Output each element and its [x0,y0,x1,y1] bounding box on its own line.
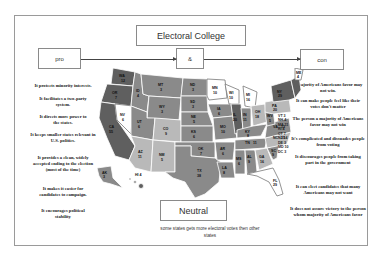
svg-text:3: 3 [103,175,105,179]
svg-text:10: 10 [221,130,225,134]
svg-text:20: 20 [273,108,277,112]
svg-text:3: 3 [160,88,162,92]
svg-text:3: 3 [192,88,194,92]
svg-text:10: 10 [213,91,217,95]
svg-text:29: 29 [273,183,277,187]
svg-text:MI: MI [246,93,250,97]
svg-text:OR: OR [112,91,118,95]
svg-text:GA: GA [259,155,265,159]
state-ne [181,112,213,126]
svg-text:6: 6 [222,152,224,156]
svg-text:9: 9 [248,160,250,164]
svg-text:11: 11 [243,118,247,122]
svg-text:6: 6 [238,162,240,166]
state-ar [215,142,235,160]
arrow-center-to-con [204,59,300,60]
svg-text:9: 9 [165,132,167,136]
svg-text:ND: ND [190,83,196,87]
svg-text:NV: NV [120,113,126,117]
svg-text:10: 10 [229,96,233,100]
svg-text:ID: ID [136,89,140,93]
svg-text:OK: OK [198,147,204,151]
svg-text:11: 11 [253,141,257,145]
svg-text:AZ: AZ [138,150,144,154]
svg-text:12: 12 [121,79,125,83]
svg-text:HI 4: HI 4 [135,173,142,177]
state-sd [181,96,208,112]
svg-text:NM: NM [159,153,165,157]
con-box: con [300,49,344,70]
svg-text:OH: OH [255,110,261,114]
state-az [129,136,153,172]
svg-text:6: 6 [218,112,220,116]
svg-text:29: 29 [278,94,282,98]
svg-text:MO: MO [220,125,226,129]
svg-text:6: 6 [138,125,140,129]
svg-text:6: 6 [193,135,195,139]
state-hi [139,184,144,189]
svg-text:CO: CO [163,127,169,131]
svg-text:3: 3 [161,110,163,114]
svg-text:7: 7 [200,152,202,156]
neutral-note: some states gets more electoral votes th… [160,226,260,240]
svg-text:AL: AL [247,155,253,159]
svg-text:11: 11 [138,155,142,159]
svg-text:7: 7 [115,96,117,100]
svg-text:TX: TX [197,169,202,173]
svg-text:WV: WV [267,114,273,118]
svg-text:5: 5 [269,119,271,123]
svg-text:SD: SD [190,100,195,104]
state-ks [181,126,213,142]
svg-text:5: 5 [161,158,163,162]
svg-text:MS: MS [236,157,242,161]
svg-text:NE: NE [191,115,197,119]
state-ak [97,166,123,188]
svg-text:IN: IN [243,113,247,117]
us-electoral-map: WA12 OR7 CA55 NV6 ID4 MT3 WY3 UT6 CO9 AZ… [95,68,305,203]
pro-box: pro [38,48,81,69]
svg-text:WI: WI [229,91,233,95]
svg-text:UT: UT [137,120,143,124]
state-mi [243,86,257,108]
state-al [245,150,257,174]
svg-text:4: 4 [297,75,299,79]
state-ms [235,150,245,174]
svg-text:CA: CA [109,125,115,129]
svg-text:AR: AR [220,147,226,151]
svg-text:6: 6 [122,118,124,122]
svg-text:LA: LA [222,166,227,170]
svg-text:4: 4 [137,94,139,98]
pro-point: It encourages political stability [16,208,110,220]
state-tn [235,138,267,150]
svg-text:WA: WA [119,74,125,78]
svg-text:16: 16 [260,160,264,164]
svg-text:5: 5 [193,120,195,124]
svg-text:IA: IA [217,107,221,111]
svg-text:8: 8 [247,134,249,138]
svg-text:TN: TN [245,141,250,145]
northeast-electoral-list: VT 3 NH 4 MA 11 RI 4 CT 7 NJ 14 DE 3 MD … [278,114,289,154]
svg-text:55: 55 [109,130,113,134]
svg-text:9: 9 [272,153,274,157]
arrow-pro-to-center [81,59,176,60]
diagram-title: Electoral College [136,25,246,46]
svg-text:16: 16 [246,98,250,102]
svg-text:KS: KS [191,130,197,134]
svg-text:8: 8 [223,171,225,175]
svg-text:WY: WY [159,105,165,109]
neutral-box: Neutral [160,200,227,221]
svg-text:3: 3 [192,105,194,109]
center-box: & [176,48,204,69]
svg-text:18: 18 [255,115,259,119]
svg-text:MT: MT [158,83,164,87]
svg-text:20: 20 [233,118,237,122]
state-nd [181,78,207,96]
svg-text:MN: MN [212,86,218,90]
ne-item: DC 3 [278,150,289,154]
con-point: It does not assure victory to the person… [288,206,368,218]
svg-text:38: 38 [197,174,201,178]
